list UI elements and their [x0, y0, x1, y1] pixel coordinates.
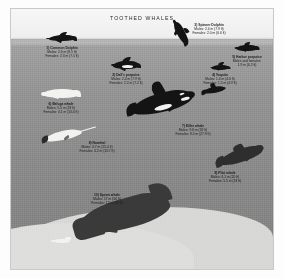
- species-pilot-whale: 9) Pilot whale Males: 6.1 m (20 ft) Fema…: [189, 149, 273, 193]
- spinner-dolphin-icon: [177, 21, 185, 45]
- species-narwhal: 8) Narwhal Males: 4.7 m (15.4 ft) Female…: [41, 127, 127, 161]
- species-harbor-porpoise: 5) Harbor porpoise Males and females: 1.…: [219, 45, 274, 73]
- narwhal-caption: 8) Narwhal Males: 4.7 m (15.4 ft) Female…: [80, 141, 115, 153]
- species-killer-whale: 7) Killer whale Males: 9.8 m (32 ft) Fem…: [127, 87, 235, 141]
- submersible-icon: [54, 239, 70, 243]
- illustration-frame: TOOTHED WHALES 1) Common Dolphin Males: …: [10, 8, 274, 270]
- common-dolphin-caption: 1) Common Dolphin Males: 2.6 m (8.5 ft) …: [45, 46, 78, 58]
- species-female-size: Females: 5.5 m (18 ft): [209, 179, 241, 183]
- species-common-dolphin: 1) Common Dolphin Males: 2.6 m (8.5 ft) …: [25, 35, 99, 65]
- species-sperm-whale: 10) Sperm whale Males: 17 m (56 ft) Fema…: [67, 185, 197, 247]
- dalls-porpoise-icon: [113, 61, 139, 69]
- spinner-dolphin-caption: 3) Spinner Dolphin Males: 2.4 m (7.9 ft)…: [192, 23, 225, 35]
- pilot-whale-icon: [219, 149, 263, 162]
- killer-whale-calf-icon: [203, 87, 225, 93]
- pilot-whale-caption: 9) Pilot whale Males: 6.1 m (20 ft) Fema…: [209, 171, 241, 183]
- species-female-size: Females: 4.1 m (13.4 ft): [44, 110, 79, 114]
- common-dolphin-icon: [49, 35, 75, 41]
- species-female-size: Females: 4.2 m (13.7 ft): [80, 149, 115, 153]
- page-title: TOOTHED WHALES: [11, 15, 273, 21]
- species-female-size: 1.9 m (6.2 ft): [232, 63, 262, 67]
- dalls-porpoise-caption: 2) Dall's porpoise Males: 2.4 m (7.9 ft)…: [109, 73, 142, 85]
- illustration-plate: TOOTHED WHALES 1) Common Dolphin Males: …: [0, 0, 284, 279]
- species-female-size: Females: 2.2 m (7.2 ft): [109, 81, 142, 85]
- scale-reference-submersible: [47, 239, 77, 249]
- species-female-size: Females: 12 m (39 ft): [91, 201, 122, 205]
- species-female-size: Females: 1.5 m (4.9 ft): [203, 81, 236, 85]
- narwhal-tusk: [80, 127, 96, 132]
- killer-whale-icon: [131, 93, 193, 112]
- harbor-porpoise-caption: 5) Harbor porpoise Males and females: 1.…: [232, 55, 262, 67]
- species-female-size: Females: 2.0 m (6.6 ft): [192, 31, 225, 35]
- species-female-size: Females: 8.5 m (27.9 ft): [176, 132, 211, 136]
- species-beluga-whale: 6) Beluga whale Males: 5.5 m (18 ft) Fem…: [23, 89, 99, 123]
- harbor-porpoise-icon: [237, 45, 258, 51]
- species-female-size: Females: 2.3 m (7.5 ft): [45, 54, 78, 58]
- vaquita-caption: 4) Vaquita Males: 1.4 m (4.6 ft) Females…: [203, 73, 236, 85]
- beluga-whale-icon: [43, 89, 79, 98]
- killer-whale-caption: 7) Killer whale Males: 9.8 m (32 ft) Fem…: [176, 124, 211, 136]
- sperm-whale-caption: 10) Sperm whale Males: 17 m (56 ft) Fema…: [91, 193, 122, 205]
- beluga-whale-caption: 6) Beluga whale Males: 5.5 m (18 ft) Fem…: [44, 102, 79, 114]
- narwhal-icon: [45, 131, 81, 140]
